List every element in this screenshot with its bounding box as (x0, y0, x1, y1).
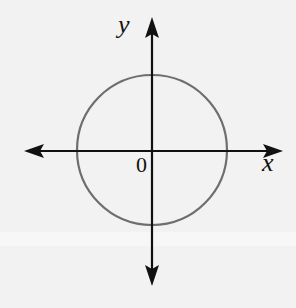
origin-label: 0 (136, 154, 147, 176)
y-axis-label: y (118, 12, 130, 38)
coordinate-diagram: y x 0 (0, 0, 296, 308)
axes-and-circle (0, 0, 296, 308)
x-axis-label: x (262, 150, 274, 176)
